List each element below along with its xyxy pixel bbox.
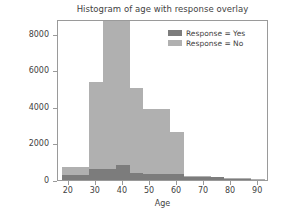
legend-item: Response = No [168, 38, 245, 48]
bar-yes [62, 175, 89, 180]
bar-yes [170, 174, 184, 180]
x-tick-mark [176, 181, 177, 185]
y-tick-label: 8000 [3, 31, 49, 39]
y-tick-label: 4000 [3, 104, 49, 112]
legend-swatch [168, 40, 182, 46]
x-tick-mark [203, 181, 204, 185]
x-tick-mark [257, 181, 258, 185]
legend-label: Response = No [186, 39, 243, 48]
bar-yes [143, 174, 157, 180]
y-tick-mark [53, 71, 57, 72]
legend-label: Response = Yes [186, 29, 245, 38]
x-tick-mark [95, 181, 96, 185]
y-tick-label: 0 [3, 177, 49, 185]
x-tick-label: 40 [110, 187, 134, 195]
x-tick-label: 90 [245, 187, 269, 195]
bar-no [130, 88, 144, 180]
bar-yes [184, 177, 211, 180]
y-tick-mark [53, 108, 57, 109]
legend-item: Response = Yes [168, 28, 245, 38]
bar-yes [224, 179, 251, 180]
x-tick-label: 80 [218, 187, 242, 195]
bar-no [157, 109, 171, 180]
bar-no [116, 20, 130, 180]
y-tick-mark [53, 144, 57, 145]
x-tick-mark [122, 181, 123, 185]
x-tick-mark [230, 181, 231, 185]
x-tick-mark [68, 181, 69, 185]
bar-no [143, 109, 157, 180]
bar-no [103, 20, 117, 180]
chart-title: Histogram of age with response overlay [57, 4, 268, 14]
x-tick-mark [149, 181, 150, 185]
y-tick-mark [53, 35, 57, 36]
y-tick-mark [53, 181, 57, 182]
x-axis-label: Age [57, 199, 268, 208]
legend: Response = YesResponse = No [165, 26, 248, 50]
y-tick-label: 2000 [3, 140, 49, 148]
bar-yes [157, 174, 171, 180]
bar-no [89, 82, 103, 180]
legend-swatch [168, 30, 182, 36]
x-tick-label: 60 [164, 187, 188, 195]
bar-no [170, 132, 184, 180]
x-tick-label: 70 [191, 187, 215, 195]
bar-yes [103, 169, 117, 180]
bar-yes [89, 169, 103, 180]
x-tick-label: 50 [137, 187, 161, 195]
histogram-figure: Histogram of age with response overlay F… [0, 0, 281, 222]
bar-yes [130, 173, 144, 180]
bar-yes [211, 177, 225, 180]
x-tick-label: 30 [83, 187, 107, 195]
x-tick-label: 20 [56, 187, 80, 195]
y-tick-label: 6000 [3, 67, 49, 75]
bar-yes [116, 165, 130, 180]
